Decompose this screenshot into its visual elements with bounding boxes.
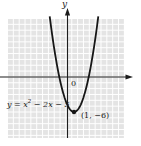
equation-label: y = x2 − 2x − 5 [7, 101, 70, 109]
equation-part1: y = x [7, 100, 28, 109]
equation-part2: − 2x − 5 [31, 100, 69, 109]
y-axis-arrow-icon [65, 8, 70, 16]
parabola-curve [50, 16, 99, 112]
parabola-graph-figure: y 0 y = x2 − 2x − 5 (1, −6) [0, 0, 141, 146]
plot-canvas [0, 0, 141, 146]
origin-label: 0 [71, 80, 76, 88]
y-axis-label: y [62, 0, 67, 9]
x-axis-arrow-icon [126, 74, 134, 79]
vertex-label: (1, −6) [81, 112, 109, 120]
vertex-point [72, 110, 76, 114]
